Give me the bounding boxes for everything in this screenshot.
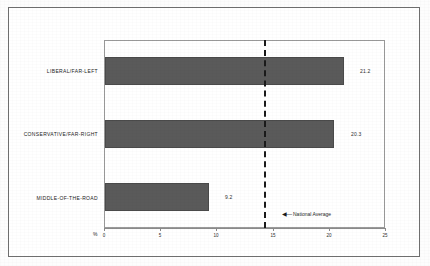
x-tick-10: [216, 228, 217, 231]
x-tick-0: [104, 228, 105, 231]
x-tick-20: [329, 228, 330, 231]
x-tick-label-10: 10: [213, 233, 218, 238]
bar-conservative-far-right: [105, 120, 334, 148]
x-tick-label-20: 20: [326, 233, 331, 238]
national-average-label: National Average: [293, 211, 331, 217]
x-tick-label-25: 25: [382, 233, 387, 238]
x-axis-unit-label: %: [93, 231, 97, 237]
bar-liberal-far-left: [105, 57, 344, 85]
national-average-line: [264, 40, 266, 228]
x-tick-label-5: 5: [159, 233, 162, 238]
bar-value-liberal-far-left: 21.2: [360, 68, 371, 74]
x-tick-label-15: 15: [270, 233, 275, 238]
category-label-middle-of-the-road: MIDDLE-OF-THE-ROAD: [14, 195, 98, 201]
x-tick-5: [160, 228, 161, 231]
category-label-liberal-far-left: LIBERAL/FAR-LEFT: [18, 68, 98, 74]
national-average-annotation: ◀— National Average: [282, 211, 331, 217]
x-axis: [104, 228, 385, 229]
bar-value-conservative-far-right: 20.3: [351, 131, 362, 137]
x-tick-label-0: 0: [103, 233, 106, 238]
left-arrow-icon: ◀—: [282, 211, 291, 217]
x-tick-25: [385, 228, 386, 231]
x-tick-15: [273, 228, 274, 231]
category-label-conservative-far-right: CONSERVATIVE/FAR-RIGHT: [8, 131, 98, 137]
chart-page: LIBERAL/FAR-LEFT CONSERVATIVE/FAR-RIGHT …: [0, 0, 430, 266]
bar-middle-of-the-road: [105, 183, 209, 211]
bar-value-middle-of-the-road: 9.2: [225, 194, 233, 200]
